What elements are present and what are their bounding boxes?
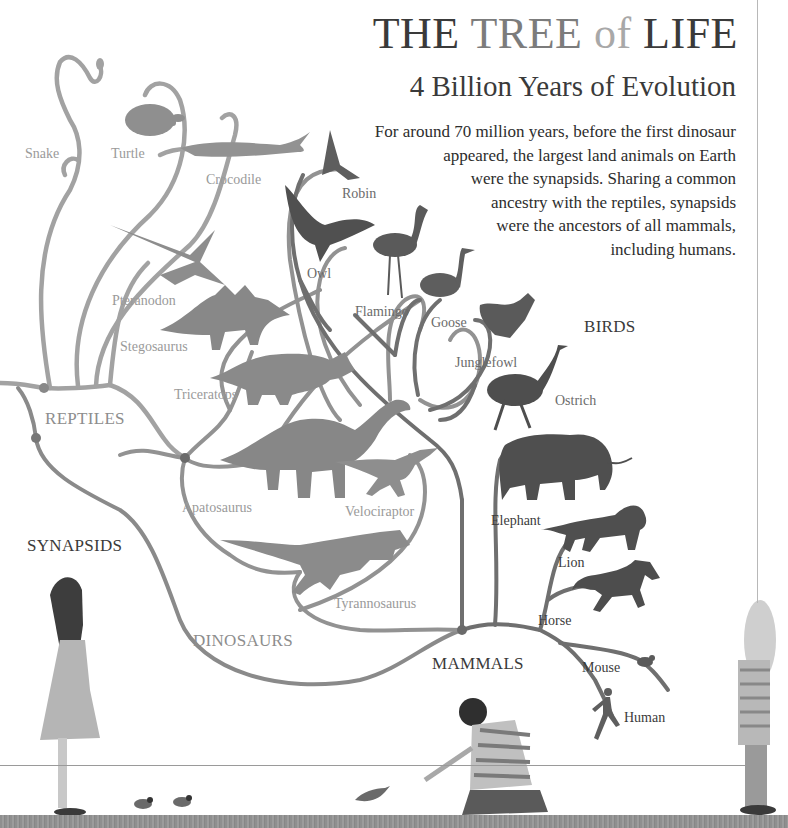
label-pteranodon: Pteranodon	[112, 294, 176, 308]
label-flamingo: Flamingo	[355, 305, 409, 319]
intro-line: appeared, the largest land animals on Ea…	[316, 144, 736, 168]
intro-line: For around 70 million years, before the …	[316, 120, 736, 144]
group-label-reptiles: REPTILES	[45, 410, 125, 427]
tree-of-life-poster: THE TREE of LIFE 4 Billion Years of Evol…	[0, 0, 788, 828]
label-owl: Owl	[307, 267, 331, 281]
label-human: Human	[624, 711, 665, 725]
title-life: LIFE	[643, 9, 738, 58]
hanging-string	[757, 0, 758, 603]
crocodile-silhouette	[180, 132, 310, 157]
mouse-silhouette	[637, 655, 655, 667]
horse-silhouette	[572, 560, 660, 612]
intro-line: ancestry with the reptiles, synapsids	[316, 191, 736, 215]
group-label-mammals: MAMMALS	[432, 655, 524, 672]
small-birds-ground	[134, 786, 390, 809]
label-goose: Goose	[431, 316, 467, 330]
lion-silhouette	[540, 506, 646, 552]
intro-line: were the synapsids. Sharing a common	[316, 167, 736, 191]
label-lion: Lion	[558, 556, 584, 570]
page-title: THE TREE of LIFE	[373, 12, 738, 56]
label-mouse: Mouse	[582, 661, 620, 675]
group-label-synapsids: SYNAPSIDS	[27, 537, 122, 554]
snake-head-icon	[96, 58, 104, 70]
label-crocodile: Crocodile	[206, 173, 261, 187]
title-of: of	[594, 9, 632, 58]
title-tree: TREE	[470, 9, 582, 58]
human-runner-silhouette	[592, 688, 620, 740]
label-robin: Robin	[342, 187, 376, 201]
tyrannosaurus-silhouette	[220, 530, 410, 595]
ground-strip	[0, 815, 788, 828]
group-label-dinosaurs: DINOSAURS	[193, 632, 293, 649]
girl-right-figure	[738, 600, 776, 815]
label-velociraptor: Velociraptor	[345, 505, 414, 519]
intro-line: including humans.	[316, 238, 736, 262]
group-label-birds: BIRDS	[584, 318, 636, 335]
label-snake: Snake	[25, 147, 59, 161]
page-subtitle: 4 Billion Years of Evolution	[410, 72, 736, 101]
label-tyrannosaurus: Tyrannosaurus	[334, 597, 416, 611]
label-stegosaurus: Stegosaurus	[120, 340, 188, 354]
label-triceratops: Triceratops	[174, 388, 237, 402]
label-apatosaurus: Apatosaurus	[182, 501, 252, 515]
intro-paragraph: For around 70 million years, before the …	[316, 120, 736, 262]
boy-kneeling-figure	[425, 698, 548, 815]
pteranodon-silhouette	[110, 225, 225, 285]
label-turtle: Turtle	[111, 147, 145, 161]
label-elephant: Elephant	[491, 514, 541, 528]
label-junglefowl: Junglefowl	[455, 356, 517, 370]
intro-line: were the ancestors of all mammals,	[316, 214, 736, 238]
horizon-line	[0, 765, 745, 766]
girl-left-figure	[40, 577, 100, 816]
elephant-silhouette	[499, 434, 632, 500]
label-horse: Horse	[538, 614, 571, 628]
turtle-silhouette	[125, 104, 185, 136]
label-ostrich: Ostrich	[555, 394, 596, 408]
title-the: THE	[373, 9, 460, 58]
